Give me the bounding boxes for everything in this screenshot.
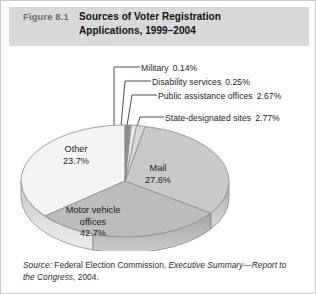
source-agency: Federal Election Commission, bbox=[52, 260, 169, 270]
pie-label-motor-vehicle-offices-name-1: Motor vehicle bbox=[45, 205, 141, 217]
callout-public-assistance-offices-label: Public assistance offices bbox=[158, 91, 253, 101]
pie-label-motor-vehicle-offices: Motor vehicle offices 42.7% bbox=[45, 205, 141, 240]
callout-state-designated-sites-value: 2.77% bbox=[255, 113, 280, 123]
callout-military-value: 0.14% bbox=[173, 63, 198, 73]
pie-label-motor-vehicle-offices-name-2: offices bbox=[45, 217, 141, 229]
figure-container: Figure 8.1 Sources of Voter Registration… bbox=[0, 0, 316, 294]
callout-disability-services: Disability services0.25% bbox=[152, 77, 250, 87]
callout-public-assistance-offices-value: 2.67% bbox=[257, 91, 282, 101]
source-note: Source: Federal Election Commission, Exe… bbox=[23, 259, 299, 283]
pie-label-other: Other 23.7% bbox=[41, 144, 111, 167]
callout-disability-services-label: Disability services bbox=[152, 77, 221, 87]
callout-disability-services-value: 0.25% bbox=[225, 77, 250, 87]
figure-title-line-1: Sources of Voter Registration bbox=[79, 10, 297, 24]
source-prefix: Source: bbox=[23, 260, 52, 270]
callout-military: Military0.14% bbox=[141, 63, 197, 73]
pie-label-other-value: 23.7% bbox=[41, 156, 111, 168]
callout-military-label: Military bbox=[141, 63, 169, 73]
callout-public-assistance-offices: Public assistance offices2.67% bbox=[158, 91, 281, 101]
pie-label-other-name: Other bbox=[41, 144, 111, 156]
figure-title: Sources of Voter Registration Applicatio… bbox=[79, 10, 297, 38]
pie-label-mail-value: 27.6% bbox=[123, 175, 193, 187]
source-suffix: , 2004. bbox=[73, 272, 99, 282]
pie-label-motor-vehicle-offices-value: 42.7% bbox=[45, 228, 141, 240]
figure-number-label: Figure 8.1 bbox=[23, 11, 69, 22]
pie-label-mail-name: Mail bbox=[123, 163, 193, 175]
figure-title-line-2: Applications, 1999–2004 bbox=[79, 24, 297, 38]
pie-chart: Other 23.7% Mail 27.6% Motor vehicle off… bbox=[15, 119, 247, 251]
pie-label-mail: Mail 27.6% bbox=[123, 163, 193, 186]
